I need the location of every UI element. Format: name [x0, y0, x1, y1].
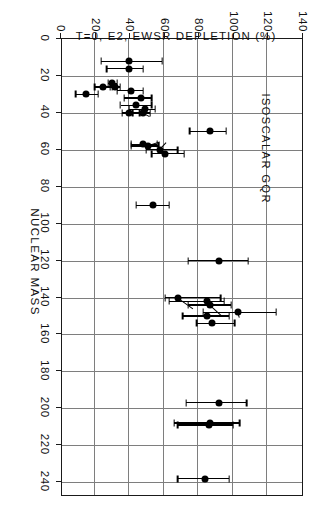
error-bar-cap — [168, 298, 169, 305]
y-axis-title: T=0, E2, EWSR DEPLETION (%) — [76, 30, 277, 42]
y-axis-tick-label: 0 — [55, 2, 67, 32]
error-bar-cap — [142, 87, 143, 94]
error-bar-cap — [177, 421, 178, 428]
error-bar-cap — [146, 146, 147, 153]
error-bar-cap — [239, 420, 240, 427]
y-axis-tick-label: 120 — [262, 2, 274, 32]
x-axis-tick — [56, 149, 61, 150]
error-bar-cap — [229, 313, 230, 320]
chart-annotation: ISOSCALAR GQR — [260, 93, 272, 204]
error-bar-cap — [122, 109, 123, 116]
y-axis-tick-label: 100 — [228, 2, 240, 32]
data-point — [216, 399, 223, 406]
data-point — [138, 95, 145, 102]
error-bar-cap — [230, 301, 231, 308]
error-bar-cap — [151, 150, 152, 157]
y-axis-tick-label: 140 — [297, 2, 309, 32]
error-bar-cap — [246, 399, 247, 406]
error-bar-cap — [111, 84, 112, 91]
error-bar-cap — [248, 257, 249, 264]
error-bar-cap — [182, 313, 183, 320]
error-bar-cap — [94, 84, 95, 91]
x-axis-title: NUCLEAR MASS — [29, 0, 41, 524]
data-point — [203, 313, 210, 320]
error-bar-cap — [275, 309, 276, 316]
data-point — [202, 475, 209, 482]
error-bar-cap — [189, 128, 190, 135]
error-bar-cap — [161, 58, 162, 65]
y-axis-tick-label: 20 — [90, 2, 102, 32]
x-axis-tick — [56, 260, 61, 261]
x-axis-tick — [56, 444, 61, 445]
error-bar-cap — [142, 65, 143, 72]
error-bar-cap — [225, 128, 226, 135]
error-bar-cap — [75, 91, 76, 98]
error-bar-cap — [184, 150, 185, 157]
x-axis-tick — [56, 223, 61, 224]
x-axis-tick — [56, 333, 61, 334]
error-bar-cap — [187, 257, 188, 264]
data-point — [216, 257, 223, 264]
error-bar-cap — [173, 420, 174, 427]
x-axis-tick — [56, 407, 61, 408]
data-point — [150, 202, 157, 209]
data-point — [207, 128, 214, 135]
y-axis-tick — [302, 33, 303, 38]
gridline-horizontal — [94, 39, 95, 495]
y-axis-tick-label: 40 — [124, 2, 136, 32]
error-bar-cap — [139, 109, 140, 116]
error-bar — [169, 301, 224, 302]
error-bar-cap — [229, 475, 230, 482]
error-bar-cap — [186, 399, 187, 406]
error-bar-cap — [154, 106, 155, 113]
error-bar-cap — [135, 202, 136, 209]
data-point — [126, 109, 133, 116]
data-point — [126, 58, 133, 65]
error-bar-cap — [196, 320, 197, 327]
gridline-horizontal — [163, 39, 164, 495]
error-bar-cap — [130, 143, 131, 150]
error-bar-cap — [106, 65, 107, 72]
data-point — [100, 84, 107, 91]
error-bar-cap — [151, 95, 152, 102]
x-axis-tick — [56, 75, 61, 76]
data-point — [126, 65, 133, 72]
y-axis-tick-label: 80 — [193, 2, 205, 32]
error-bar-cap — [123, 95, 124, 102]
error-bar-cap — [177, 475, 178, 482]
data-point — [205, 421, 212, 428]
x-axis-tick — [56, 297, 61, 298]
error-bar-cap — [168, 202, 169, 209]
data-point — [127, 87, 134, 94]
rotated-figure-container: 0204060801001201401601802002202400204060… — [0, 0, 333, 524]
error-bar-cap — [116, 87, 117, 94]
error-bar-cap — [234, 320, 235, 327]
connector-line — [177, 297, 193, 309]
chart-figure: 0204060801001201401601802002202400204060… — [0, 0, 333, 524]
x-axis-tick — [56, 481, 61, 482]
data-point — [209, 320, 216, 327]
error-bar-cap — [120, 102, 121, 109]
error-bar-cap — [97, 91, 98, 98]
y-axis-tick-label: 60 — [159, 2, 171, 32]
gridline-horizontal — [197, 39, 198, 495]
x-axis-tick — [56, 38, 61, 39]
x-axis-tick — [56, 186, 61, 187]
error-bar-cap — [101, 58, 102, 65]
data-point — [162, 150, 169, 157]
data-point — [82, 91, 89, 98]
error-bar-cap — [232, 421, 233, 428]
error-bar-cap — [165, 294, 166, 301]
x-axis-tick — [56, 112, 61, 113]
x-axis-tick — [56, 370, 61, 371]
y-axis-tick — [60, 33, 61, 38]
